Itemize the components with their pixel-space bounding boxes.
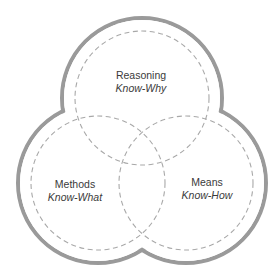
dashed-circles xyxy=(31,31,253,250)
methods-circle xyxy=(31,116,165,250)
means-title: Means xyxy=(191,176,223,188)
methods-subtitle: Know-What xyxy=(48,191,103,203)
methods-title: Methods xyxy=(55,178,95,190)
means-label: Means Know-How xyxy=(182,176,234,201)
means-subtitle: Know-How xyxy=(182,189,234,201)
venn-diagram: Reasoning Know-Why Methods Know-What Mea… xyxy=(0,0,280,277)
outer-boundary xyxy=(18,18,266,263)
reasoning-title: Reasoning xyxy=(116,69,166,81)
reasoning-label: Reasoning Know-Why xyxy=(116,69,168,94)
reasoning-subtitle: Know-Why xyxy=(116,82,168,94)
reasoning-circle xyxy=(75,31,209,165)
means-circle xyxy=(119,116,253,250)
methods-label: Methods Know-What xyxy=(48,178,103,203)
